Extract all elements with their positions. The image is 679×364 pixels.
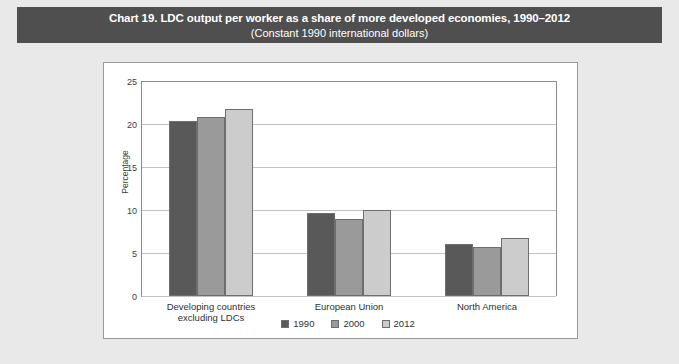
chart-legend: 199020002012 — [141, 318, 555, 329]
x-axis-category-label: European Union — [315, 301, 384, 312]
plot-right-edge — [556, 81, 557, 296]
plot-area: 0510152025 Developing countriesexcluding… — [141, 81, 556, 297]
bar-1990 — [307, 213, 335, 296]
bar-2000 — [473, 247, 501, 296]
legend-label: 2000 — [343, 318, 364, 329]
x-axis-category-label: North America — [457, 301, 517, 312]
chart-page: Chart 19. LDC output per worker as a sha… — [0, 0, 679, 364]
bar-group: North America — [445, 81, 529, 296]
bar-2000 — [197, 117, 225, 296]
chart-subtitle: (Constant 1990 international dollars) — [17, 26, 662, 41]
x-axis-category-label-line: Developing countries — [167, 301, 256, 312]
x-axis-category-label-line: European Union — [315, 301, 384, 312]
bar-2000 — [335, 219, 363, 296]
legend-label: 1990 — [293, 318, 314, 329]
plot-wrapper: Percentage 0510152025 Developing countri… — [104, 63, 579, 340]
bar-1990 — [169, 121, 197, 296]
chart-title-banner: Chart 19. LDC output per worker as a sha… — [17, 7, 662, 43]
y-axis-tick-label: 25 — [127, 77, 137, 87]
gridline-0: 0 — [142, 296, 556, 297]
legend-item-2012: 2012 — [382, 318, 415, 329]
y-axis-tick-label: 5 — [132, 249, 137, 259]
x-axis-category-label-line: North America — [457, 301, 517, 312]
bar-group: Developing countriesexcluding LDCs — [169, 81, 253, 296]
y-axis-tick-label: 20 — [127, 120, 137, 130]
legend-swatch-2000 — [331, 320, 339, 328]
bar-2012 — [225, 109, 253, 296]
legend-item-2000: 2000 — [331, 318, 364, 329]
y-axis-tick-label: 15 — [127, 163, 137, 173]
legend-item-1990: 1990 — [281, 318, 314, 329]
legend-label: 2012 — [394, 318, 415, 329]
legend-swatch-1990 — [281, 320, 289, 328]
y-axis-tick-label: 10 — [127, 206, 137, 216]
bar-2012 — [363, 210, 391, 296]
bars-layer: Developing countriesexcluding LDCsEurope… — [142, 81, 556, 296]
chart-panel: Percentage 0510152025 Developing countri… — [103, 62, 578, 339]
bar-1990 — [445, 244, 473, 296]
chart-title: Chart 19. LDC output per worker as a sha… — [17, 11, 662, 26]
y-axis-tick-label: 0 — [132, 292, 137, 302]
legend-swatch-2012 — [382, 320, 390, 328]
bar-group: European Union — [307, 81, 391, 296]
bar-2012 — [501, 238, 529, 296]
